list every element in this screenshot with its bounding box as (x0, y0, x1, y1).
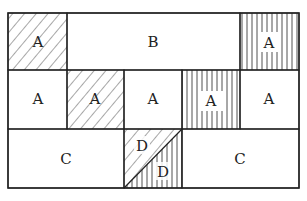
cell-r2-c5: A (240, 70, 299, 129)
cell-label: B (147, 33, 158, 51)
cell-r1-c2: B (67, 13, 240, 70)
cell-label: A (263, 34, 275, 52)
cell-label: C (60, 150, 71, 168)
cell-label: A (89, 90, 101, 108)
cell-label: A (263, 90, 275, 108)
cell-label: A (32, 90, 44, 108)
cell-r2-c3: A (124, 70, 182, 129)
cell-r2-c4-vertical: A (182, 70, 240, 129)
cell-label-lower: D (157, 163, 169, 181)
cell-label: C (234, 150, 245, 168)
cell-r1-c3-vertical: A (240, 13, 299, 70)
cell-r2-c1: A (8, 70, 67, 129)
cell-r3-c2-split: D D (124, 129, 182, 188)
cell-r2-c2-hatched: A (67, 70, 124, 129)
cell-r3-c3: C (182, 129, 299, 188)
cell-label: A (147, 90, 159, 108)
cell-r1-c1-hatched: A (8, 13, 67, 70)
tiling-diagram: A B A A A A A A C (0, 0, 307, 201)
cell-label: A (205, 92, 217, 110)
cell-label: A (32, 33, 44, 51)
cell-label-upper: D (136, 137, 148, 155)
cell-r3-c1: C (8, 129, 124, 188)
